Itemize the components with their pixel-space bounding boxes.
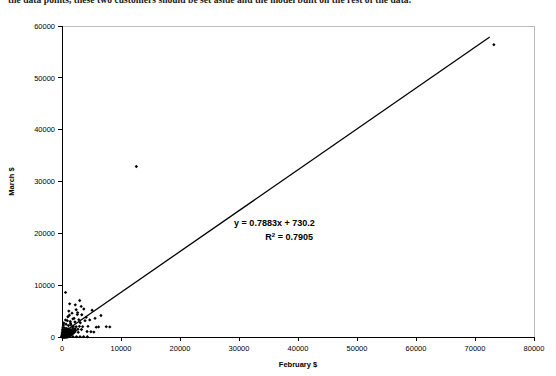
page-root: the data points, these two customers sho… — [0, 0, 556, 376]
x-axis-tick-label: 30000 — [229, 344, 250, 353]
y-axis-tick-label: 0 — [51, 333, 55, 342]
data-point — [80, 313, 83, 316]
data-point — [70, 311, 73, 314]
data-point — [78, 299, 81, 302]
data-point — [68, 302, 71, 305]
data-point — [86, 335, 89, 338]
data-point — [77, 331, 80, 334]
x-axis-tick-label: 70000 — [465, 344, 486, 353]
data-point — [105, 325, 108, 328]
data-point — [75, 335, 78, 338]
x-axis-tick-label: 10000 — [111, 344, 132, 353]
data-point — [83, 319, 86, 322]
data-point — [88, 318, 91, 321]
data-point — [67, 309, 70, 312]
data-point — [79, 305, 82, 308]
x-axis-tick-label: 40000 — [288, 344, 309, 353]
y-axis-tick-label: 20000 — [34, 229, 55, 238]
regression-trendline — [62, 37, 490, 333]
scatter-chart: 0100002000030000400005000060000010000200… — [0, 10, 556, 376]
data-point — [93, 317, 96, 320]
x-axis-tick-label: 0 — [60, 344, 64, 353]
chart-svg: 0100002000030000400005000060000010000200… — [0, 10, 556, 376]
data-point — [82, 335, 85, 338]
data-point — [99, 314, 102, 317]
data-point — [135, 165, 138, 168]
data-point — [74, 303, 77, 306]
y-axis-tick-label: 50000 — [34, 74, 55, 83]
data-point — [64, 291, 67, 294]
data-point — [92, 330, 95, 333]
x-axis-tick-label: 20000 — [170, 344, 191, 353]
y-axis-tick-label: 60000 — [34, 22, 55, 31]
data-point — [95, 325, 98, 328]
y-axis-title: March $ — [7, 167, 16, 196]
data-point — [74, 308, 77, 311]
x-axis-tick-label: 60000 — [406, 344, 427, 353]
data-points-group — [60, 43, 495, 339]
y-axis-tick-label: 30000 — [34, 177, 55, 186]
y-axis-tick-label: 40000 — [34, 125, 55, 134]
x-axis-tick-label: 50000 — [347, 344, 368, 353]
r-squared-label: R2 = 0.7905 — [265, 232, 313, 242]
data-point — [82, 307, 85, 310]
data-point — [85, 330, 88, 333]
data-point — [492, 43, 495, 46]
page-body-text-fragment: the data points, these two customers sho… — [8, 0, 552, 6]
data-point — [78, 325, 81, 328]
x-axis-title: February $ — [279, 360, 318, 369]
regression-equation-label: y = 0.7883x + 730.2 — [234, 218, 315, 228]
data-point — [108, 325, 111, 328]
y-axis-tick-label: 10000 — [34, 281, 55, 290]
data-point — [78, 335, 81, 338]
data-point — [89, 330, 92, 333]
data-point — [86, 325, 89, 328]
x-axis-tick-label: 80000 — [524, 344, 545, 353]
